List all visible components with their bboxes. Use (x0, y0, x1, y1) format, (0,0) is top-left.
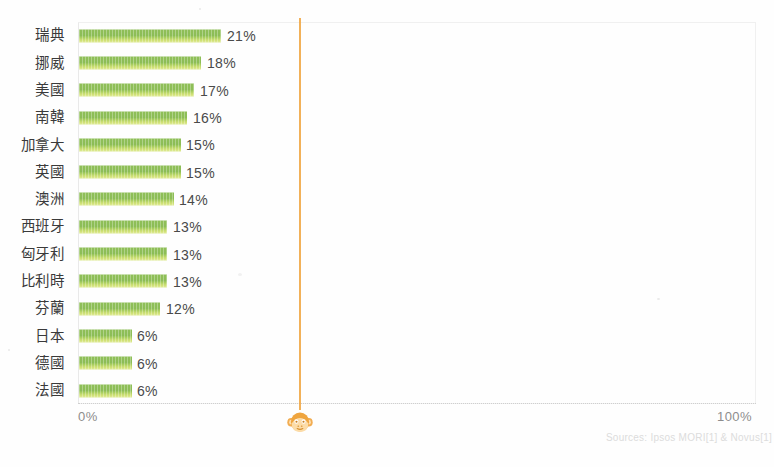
bar-value-label: 21% (227, 28, 256, 44)
bar (79, 111, 187, 124)
category-label: 芬蘭 (8, 301, 74, 316)
bar-value-label: 13% (173, 219, 202, 235)
bar-track: 6% (79, 357, 756, 370)
bar (79, 193, 174, 206)
bar-row: 美國 17% (0, 77, 774, 104)
bar (79, 248, 167, 261)
bar-row: 德國 6% (0, 350, 774, 377)
category-label: 澳洲 (8, 192, 74, 207)
bar-track: 12% (79, 302, 756, 315)
x-axis-tick-min: 0% (78, 409, 98, 424)
bar (79, 166, 181, 179)
bar-track: 16% (79, 111, 756, 124)
category-label: 英國 (8, 165, 74, 180)
bar-row: 瑞典 21% (0, 22, 774, 49)
bar-value-label: 13% (173, 246, 202, 262)
bar (79, 302, 160, 315)
bar-track: 6% (79, 384, 756, 397)
bar-row: 加拿大 15% (0, 131, 774, 158)
bar (79, 357, 132, 370)
bar (79, 138, 181, 151)
bar-track: 13% (79, 220, 756, 233)
category-label: 日本 (8, 329, 74, 344)
bar-track: 13% (79, 248, 756, 261)
bar-value-label: 16% (193, 110, 222, 126)
category-label: 德國 (8, 356, 74, 371)
category-label: 挪威 (8, 56, 74, 71)
category-label: 法國 (8, 383, 74, 398)
bar-track: 17% (79, 84, 756, 97)
category-label: 西班牙 (8, 219, 74, 234)
bar (79, 275, 167, 288)
bar (79, 220, 167, 233)
category-label: 比利時 (8, 274, 74, 289)
bar (79, 84, 194, 97)
bar-track: 21% (79, 29, 756, 42)
category-label: 加拿大 (8, 138, 74, 153)
bar-value-label: 17% (200, 82, 229, 98)
bar-track: 15% (79, 138, 756, 151)
bar-row: 芬蘭 12% (0, 295, 774, 322)
chart-canvas: 瑞典 21% 挪威 18% 美國 17% 南韓 16% (0, 0, 774, 467)
x-axis-tick-max: 100% (717, 409, 752, 424)
bar-row: 西班牙 13% (0, 213, 774, 240)
monkey-face-icon (286, 410, 314, 434)
bar-row: 日本 6% (0, 322, 774, 349)
bar-value-label: 15% (186, 164, 215, 180)
bar-row: 法國 6% (0, 377, 774, 404)
category-label: 匈牙利 (8, 247, 74, 262)
scan-artifact (199, 8, 201, 10)
bar (79, 56, 201, 69)
bar-track: 18% (79, 56, 756, 69)
reference-line (299, 18, 301, 410)
source-note: Sources: Ipsos MORI[1] & Novus[1] (572, 432, 772, 443)
bar-track: 15% (79, 166, 756, 179)
bar-rows: 瑞典 21% 挪威 18% 美國 17% 南韓 16% (0, 22, 774, 404)
bar-value-label: 18% (207, 55, 236, 71)
bar-value-label: 14% (179, 191, 208, 207)
bar-value-label: 15% (186, 137, 215, 153)
bar-track: 14% (79, 193, 756, 206)
bar-value-label: 12% (166, 301, 195, 317)
bar-track: 13% (79, 275, 756, 288)
bar-row: 比利時 13% (0, 268, 774, 295)
bar-value-label: 13% (173, 273, 202, 289)
bar (79, 384, 132, 397)
bar-value-label: 6% (137, 328, 158, 344)
category-label: 南韓 (8, 110, 74, 125)
bar-row: 匈牙利 13% (0, 240, 774, 267)
bar (79, 329, 132, 342)
bar-row: 英國 15% (0, 158, 774, 185)
bar-row: 挪威 18% (0, 49, 774, 76)
bar-value-label: 6% (137, 383, 158, 399)
bar-track: 6% (79, 329, 756, 342)
bar (79, 29, 221, 42)
bar-row: 澳洲 14% (0, 186, 774, 213)
category-label: 美國 (8, 83, 74, 98)
bar-row: 南韓 16% (0, 104, 774, 131)
category-label: 瑞典 (8, 28, 74, 43)
bar-value-label: 6% (137, 355, 158, 371)
